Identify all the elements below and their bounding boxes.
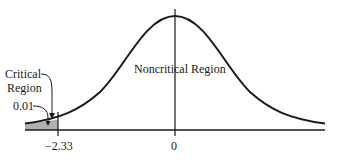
alpha-label: 0.01 [13,99,34,113]
normal-curve-diagram: Critical Region 0.01 Noncritical Region … [0,0,346,164]
critical-region-arrow [41,74,52,116]
critical-value-tick-label: −2.33 [45,139,73,153]
critical-region-label-line1: Critical [5,67,42,81]
noncritical-region-label: Noncritical Region [134,62,226,76]
center-tick-label: 0 [171,139,177,153]
critical-region-label-line2: Region [7,81,42,95]
